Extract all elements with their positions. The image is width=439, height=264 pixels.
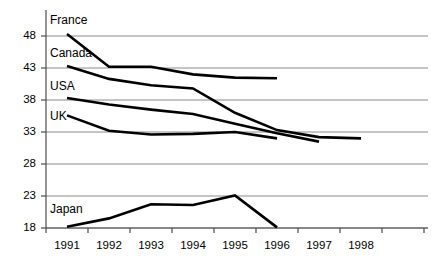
line-chart: 48 43 38 33 28 23 18 1991 1992 1993 1994… [0, 0, 439, 264]
xtick-label-1994: 1994 [173, 240, 213, 252]
series-label-canada: Canada [50, 47, 92, 59]
x-axis-ticks [46, 228, 424, 233]
ytick-label-28: 28 [10, 158, 36, 170]
y-axis-ticks [41, 36, 46, 228]
ytick-label-43: 43 [10, 62, 36, 74]
series-line-japan [67, 195, 277, 227]
data-series-layer [67, 34, 361, 227]
xtick-label-1992: 1992 [89, 240, 129, 252]
series-label-usa: USA [50, 80, 75, 92]
series-label-france: France [50, 14, 87, 26]
plot-area [0, 0, 439, 264]
series-line-france [67, 34, 277, 78]
ytick-label-23: 23 [10, 190, 36, 202]
ytick-label-18: 18 [10, 222, 36, 234]
xtick-label-1996: 1996 [257, 240, 297, 252]
series-label-japan: Japan [50, 203, 83, 215]
xtick-label-1995: 1995 [215, 240, 255, 252]
xtick-label-1997: 1997 [299, 240, 339, 252]
series-label-uk: UK [50, 110, 67, 122]
ytick-label-38: 38 [10, 94, 36, 106]
ytick-label-48: 48 [10, 30, 36, 42]
ytick-label-33: 33 [10, 126, 36, 138]
xtick-label-1993: 1993 [131, 240, 171, 252]
xtick-label-1991: 1991 [47, 240, 87, 252]
xtick-label-1998: 1998 [341, 240, 381, 252]
